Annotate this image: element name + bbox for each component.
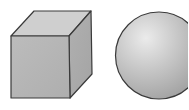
cube — [11, 11, 92, 98]
sphere-body — [116, 12, 189, 99]
sphere — [116, 12, 189, 99]
shapes-figure — [0, 0, 188, 110]
cube-front-face — [11, 36, 70, 98]
